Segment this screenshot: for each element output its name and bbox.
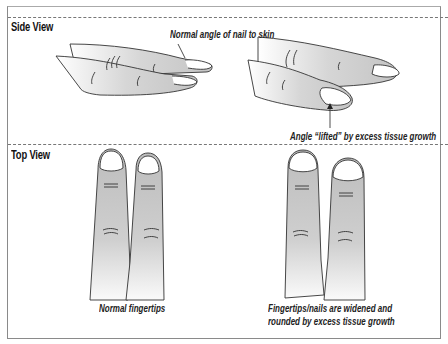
top-normal-fingers bbox=[90, 149, 164, 300]
side-normal-caption: Normal angle of nail to skin bbox=[170, 28, 274, 41]
top-clubbed-caption-line2: rounded by excess tissue growth bbox=[268, 315, 395, 328]
top-clubbed-fingers bbox=[285, 150, 365, 300]
pointer-arrow bbox=[178, 44, 185, 58]
top-clubbed-caption-line1: Fingertips/nails are widened and bbox=[268, 302, 392, 315]
side-clubbed-caption: Angle “lifted” by excess tissue growth bbox=[290, 130, 436, 143]
top-normal-caption: Normal fingertips bbox=[99, 302, 165, 315]
side-normal-fingers bbox=[56, 44, 212, 95]
side-clubbed-fingers bbox=[248, 37, 399, 111]
